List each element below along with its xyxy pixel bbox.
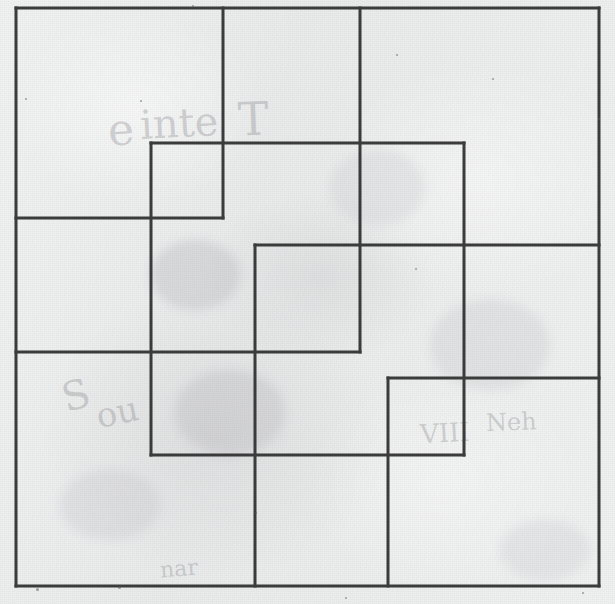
rectangle-line-figure [0, 0, 615, 604]
dust-speck-7 [598, 118, 600, 120]
dust-speck-2 [25, 98, 27, 100]
dust-speck-5 [255, 512, 257, 514]
dust-speck-3 [140, 100, 142, 102]
dust-speck-10 [345, 597, 347, 599]
dust-speck-1 [396, 54, 398, 56]
dust-speck-8 [36, 588, 39, 591]
dust-speck-11 [118, 586, 121, 589]
scanned-figure-page: einteTSouVIIINehnar [0, 0, 615, 604]
dust-speck-0 [192, 5, 194, 7]
ink-line-group [16, 8, 599, 586]
dust-speck-4 [415, 268, 417, 270]
dust-speck-9 [582, 592, 584, 594]
dust-speck-6 [492, 78, 494, 80]
